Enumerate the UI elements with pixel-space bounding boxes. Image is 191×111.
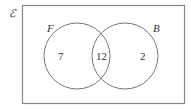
set-b-label: B — [153, 22, 160, 34]
f-only-count: 7 — [58, 50, 64, 62]
universal-set-symbol: ℰ — [9, 7, 17, 19]
venn-diagram: ℰ F B 7 12 2 — [0, 0, 191, 111]
set-f-label: F — [46, 22, 54, 34]
intersection-count: 12 — [96, 50, 107, 62]
b-only-count: 2 — [140, 50, 146, 62]
